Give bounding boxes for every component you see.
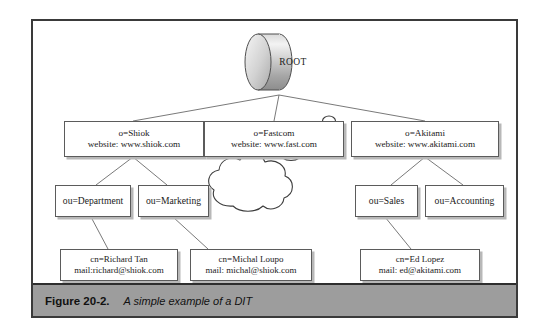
root-label: ROOT: [245, 29, 321, 95]
ou-box-sales[interactable]: ou=Sales: [355, 185, 418, 217]
org-website: website: www.shiok.com: [88, 139, 181, 150]
entry-cn: cn=Richard Tan: [90, 254, 148, 265]
entry-cn: cn=Ed Lopez: [396, 254, 444, 265]
org-website: website: www.akitami.com: [375, 139, 475, 150]
ou-name: ou=Accounting: [435, 195, 495, 207]
org-box-fastcom[interactable]: o=Fastcom website: www.fast.com: [204, 121, 344, 157]
entry-cn: cn=Michal Loupo: [219, 254, 284, 265]
ou-name: ou=Department: [63, 195, 123, 207]
root-node[interactable]: ROOT: [245, 29, 321, 95]
entry-mail: mail:richard@shiok.com: [74, 265, 164, 276]
figure-number: Figure 20-2.: [45, 295, 110, 307]
entry-mail: mail: michal@shiok.com: [206, 265, 297, 276]
org-name: o=Akitami: [405, 128, 445, 139]
entry-box-michal-loupo[interactable]: cn=Michal Loupo mail: michal@shiok.com: [190, 249, 312, 281]
ou-name: ou=Sales: [369, 195, 404, 207]
figure-frame: ROOT o=Shiok website: www.shiok.com o=Fa…: [31, 19, 518, 318]
diagram-canvas: ROOT o=Shiok website: www.shiok.com o=Fa…: [33, 21, 516, 283]
entry-box-richard-tan[interactable]: cn=Richard Tan mail:richard@shiok.com: [60, 249, 178, 281]
org-website: website: www.fast.com: [231, 139, 317, 150]
org-box-shiok[interactable]: o=Shiok website: www.shiok.com: [64, 121, 204, 157]
entry-box-ed-lopez[interactable]: cn=Ed Lopez mail: ed@akitami.com: [360, 249, 480, 281]
ou-box-accounting[interactable]: ou=Accounting: [425, 185, 504, 217]
org-name: o=Shiok: [118, 128, 149, 139]
figure-caption-bar: Figure 20-2. A simple example of a DIT: [33, 283, 516, 316]
org-box-akitami[interactable]: o=Akitami website: www.akitami.com: [351, 121, 499, 157]
ou-box-marketing[interactable]: ou=Marketing: [138, 185, 209, 217]
entry-mail: mail: ed@akitami.com: [379, 265, 461, 276]
org-name: o=Fastcom: [254, 128, 295, 139]
figure-caption-text: A simple example of a DIT: [124, 295, 253, 307]
ou-name: ou=Marketing: [146, 195, 201, 207]
ou-box-department[interactable]: ou=Department: [55, 185, 131, 217]
